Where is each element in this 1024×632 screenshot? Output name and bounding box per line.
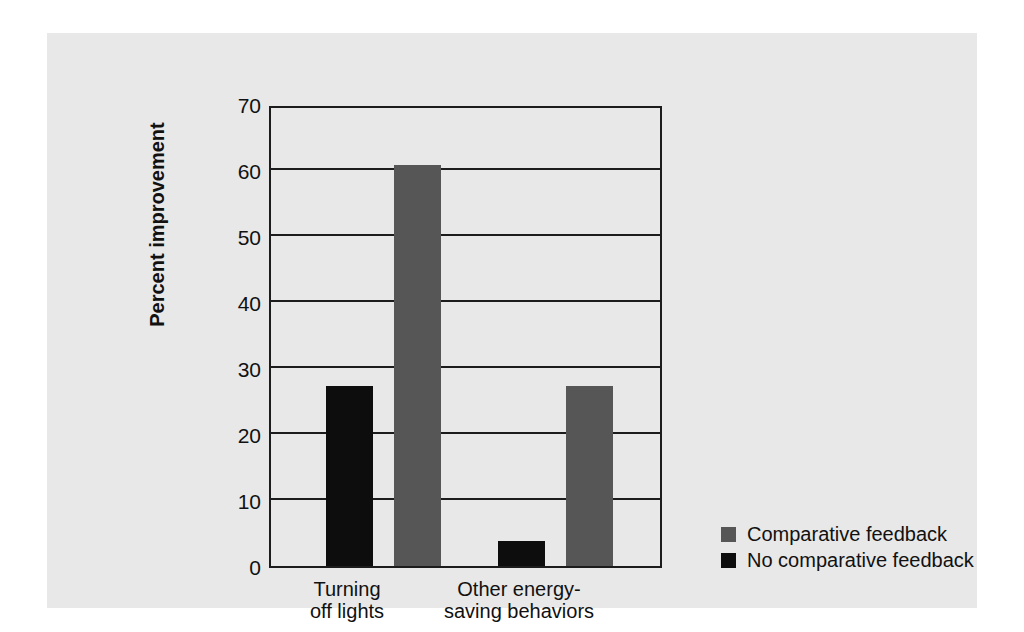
x-axis-tick-label: Other energy-saving behaviors <box>399 578 639 623</box>
legend-swatch-icon <box>721 553 736 568</box>
gridline <box>271 300 660 302</box>
y-axis-tick-labels: 010203040506070 <box>217 106 261 568</box>
y-axis-title: Percent improvement <box>146 105 169 345</box>
y-axis-tick-label: 30 <box>238 358 261 382</box>
bar <box>566 386 613 566</box>
chart-legend: Comparative feedbackNo comparative feedb… <box>721 521 974 573</box>
gridline <box>271 234 660 236</box>
legend-swatch-icon <box>721 527 736 542</box>
gridline <box>271 366 660 368</box>
bar <box>498 541 545 566</box>
x-axis-tick-label-line: Other energy- <box>399 578 639 600</box>
y-axis-tick-label: 70 <box>238 94 261 118</box>
y-axis-tick-label: 10 <box>238 490 261 514</box>
chart-screenshot: Percent improvement 010203040506070 Turn… <box>0 0 1024 632</box>
legend-item: Comparative feedback <box>721 521 974 547</box>
y-axis-tick-label: 20 <box>238 424 261 448</box>
x-axis-tick-label-line: saving behaviors <box>399 600 639 622</box>
y-axis-tick-label: 0 <box>249 556 261 580</box>
y-axis-tick-label: 40 <box>238 292 261 316</box>
bar <box>326 386 373 566</box>
gridline <box>271 168 660 170</box>
legend-label: No comparative feedback <box>747 549 974 572</box>
legend-item: No comparative feedback <box>721 547 974 573</box>
bar <box>394 165 441 566</box>
y-axis-tick-label: 60 <box>238 160 261 184</box>
plot-area <box>269 106 662 568</box>
y-axis-tick-label: 50 <box>238 226 261 250</box>
legend-label: Comparative feedback <box>747 523 947 546</box>
figure-panel: Percent improvement 010203040506070 Turn… <box>47 33 977 608</box>
